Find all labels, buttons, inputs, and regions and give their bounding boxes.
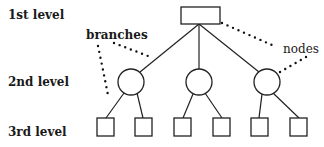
root-node [181, 7, 220, 24]
annotation-nodes: nodes [283, 42, 319, 56]
pointer-branches-to-leaf-edge [98, 46, 108, 95]
square-node-5 [251, 118, 268, 136]
pointer-nodes-to-root [222, 23, 272, 45]
circle-node-1 [118, 69, 144, 95]
circle-node-3 [254, 69, 280, 95]
square-node-6 [290, 118, 307, 136]
tree-diagram: 1st level 2nd level 3rd level branches n… [0, 0, 324, 147]
level-3-nodes [97, 118, 307, 136]
level-label-3: 3rd level [8, 125, 67, 139]
annotation-branches: branches [86, 28, 148, 42]
square-node-4 [213, 118, 230, 136]
pointer-branches-to-root-edge [114, 43, 148, 56]
level-2-nodes [118, 69, 280, 95]
edges-level-1-2 [140, 24, 259, 72]
pointer-nodes-to-circle [280, 57, 306, 72]
level-label-1: 1st level [8, 8, 65, 22]
square-node-2 [135, 118, 152, 136]
edges-level-2-3 [106, 93, 299, 118]
square-node-3 [174, 118, 191, 136]
circle-node-2 [186, 69, 212, 95]
level-label-2: 2nd level [8, 75, 69, 89]
square-node-1 [97, 118, 114, 136]
